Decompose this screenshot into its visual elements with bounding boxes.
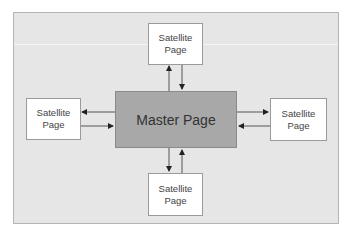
satellite-label-line1: Satellite (282, 108, 316, 120)
satellite-label-line1: Satellite (159, 32, 193, 44)
satellite-page-left: Satellite Page (26, 98, 81, 140)
master-page: Master Page (115, 91, 237, 148)
satellite-page-bottom: Satellite Page (148, 173, 203, 216)
satellite-label-line2: Page (42, 119, 64, 131)
satellite-label-line2: Page (164, 195, 186, 207)
satellite-page-top: Satellite Page (148, 23, 203, 65)
satellite-label-line1: Satellite (37, 107, 71, 119)
satellite-label-line2: Page (287, 120, 309, 132)
satellite-page-right: Satellite Page (270, 98, 327, 141)
satellite-label-line1: Satellite (159, 183, 193, 195)
master-page-label: Master Page (136, 112, 215, 128)
satellite-label-line2: Page (164, 44, 186, 56)
